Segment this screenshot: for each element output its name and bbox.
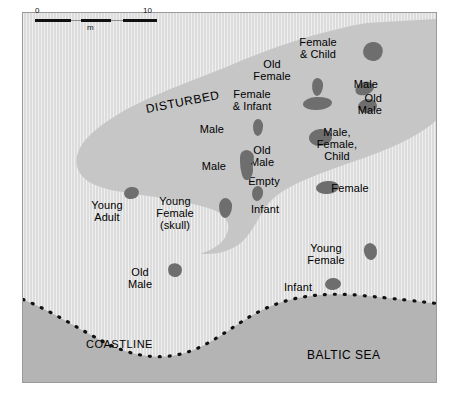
coastline-label: COASTLINE <box>86 338 153 350</box>
scale-bar-segment <box>81 19 111 22</box>
grave-label: Infant <box>238 281 358 293</box>
baltic-sea-label: BALTIC SEA <box>307 348 381 362</box>
scale-bar-unit-label: m <box>87 23 94 32</box>
grave-label: Male <box>0 123 224 135</box>
grave-label: Old Male <box>80 266 200 290</box>
grave-label: Male <box>0 160 226 172</box>
scale-bar-min-label: 0 <box>35 6 39 15</box>
scale-bar-max-label: 10 <box>143 6 152 15</box>
figure-canvas: 0 10 m DISTURBED COASTLINE BALTIC SEA Fe… <box>0 0 457 403</box>
scale-bar-segment <box>123 19 157 22</box>
grave-label: Female & Child <box>258 36 378 60</box>
grave-label: Female & Infant <box>192 88 312 112</box>
grave-label: Female <box>290 182 410 194</box>
grave-label: Young Female <box>266 242 386 266</box>
scale-bar: 0 10 m <box>35 6 157 32</box>
grave-label: Male <box>0 78 378 90</box>
scale-bar-segment <box>35 19 71 22</box>
grave-label: Young Female (skull) <box>115 195 235 231</box>
